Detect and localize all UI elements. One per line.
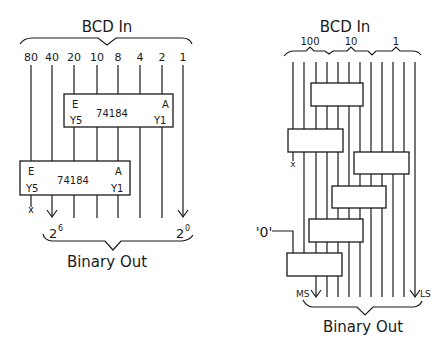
chip-pin-y5: Y5 — [69, 115, 82, 126]
group-label-1: 1 — [393, 36, 399, 47]
input-label-4: 4 — [137, 51, 144, 64]
chip-pin-y5: Y5 — [25, 183, 38, 194]
chip-pin-e: E — [72, 99, 78, 110]
input-label-8: 8 — [115, 51, 122, 64]
adder-block-4 — [332, 186, 386, 208]
ms-label: MS — [296, 289, 310, 299]
adder-block-5 — [309, 219, 363, 242]
zero-input-label: '0' — [256, 224, 273, 240]
chip-pin-a: A — [115, 166, 122, 177]
lsb-label: 2 — [176, 226, 184, 241]
chip-74184-bottom: E A Y5 Y1 74184 — [20, 161, 130, 195]
left-output-brace — [43, 234, 193, 250]
unused-output-mark: x — [28, 204, 34, 215]
chip-pin-e: E — [28, 166, 34, 177]
right-binary-out-title: Binary Out — [323, 318, 403, 336]
ls-label: LS — [420, 289, 431, 299]
adder-block-6 — [287, 253, 342, 276]
input-label-2: 2 — [159, 51, 166, 64]
input-label-1: 1 — [180, 51, 187, 64]
chip-pin-y1: Y1 — [153, 115, 166, 126]
right-output-brace — [303, 300, 422, 315]
chip-part-number: 74184 — [57, 175, 89, 186]
right-input-brace — [284, 47, 421, 56]
left-input-brace — [20, 38, 192, 45]
right-diagram: BCD In 100 10 1 — [256, 18, 431, 336]
input-label-80: 80 — [24, 51, 38, 64]
chip-74184-top: E A Y5 Y1 74184 — [64, 94, 173, 127]
msb-label: 2 — [49, 226, 57, 241]
group-label-100: 100 — [300, 36, 319, 47]
lsb-exponent: 0 — [185, 224, 190, 233]
bcd-to-binary-diagram: BCD In 80 40 20 10 8 4 2 1 — [0, 0, 444, 349]
msb-exponent: 6 — [58, 224, 63, 233]
right-bcd-in-title: BCD In — [320, 18, 371, 36]
input-label-20: 20 — [67, 51, 81, 64]
left-bcd-in-title: BCD In — [82, 18, 133, 36]
left-binary-out-title: Binary Out — [67, 253, 147, 271]
adder-block-1 — [311, 83, 363, 106]
group-label-10: 10 — [345, 36, 358, 47]
adder-block-2 — [288, 129, 343, 152]
input-label-40: 40 — [45, 51, 59, 64]
left-diagram: BCD In 80 40 20 10 8 4 2 1 — [20, 18, 193, 271]
unused-output-mark: x — [290, 159, 296, 169]
chip-pin-a: A — [162, 99, 169, 110]
chip-part-number: 74184 — [96, 108, 128, 119]
chip-pin-y1: Y1 — [110, 183, 123, 194]
input-label-10: 10 — [90, 51, 104, 64]
adder-block-3 — [354, 152, 409, 174]
